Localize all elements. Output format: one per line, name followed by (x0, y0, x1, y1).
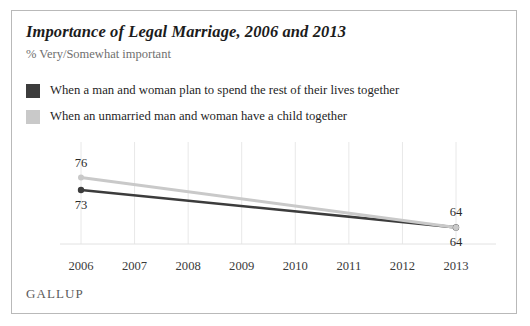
series-lines (81, 178, 456, 228)
x-tick-label-2007: 2007 (122, 259, 147, 274)
x-tick-label-2012: 2012 (390, 259, 415, 274)
chart-title: Importance of Legal Marriage, 2006 and 2… (26, 22, 346, 42)
series-markers (78, 175, 459, 231)
gridlines (81, 142, 456, 244)
value-label-2006-73: 73 (75, 198, 88, 213)
value-label-2013-64: 64 (450, 235, 463, 250)
series-line-0 (81, 190, 456, 227)
value-label-2013-64: 64 (450, 205, 463, 220)
legend-swatch-dark-icon (26, 84, 40, 98)
x-tick-label-2011: 2011 (336, 259, 361, 274)
gallup-logo: GALLUP (26, 286, 84, 302)
value-label-2006-76: 76 (75, 155, 88, 170)
legend-label-1: When an unmarried man and woman have a c… (50, 109, 347, 124)
legend-swatch-light-icon (26, 110, 40, 124)
x-tick-label-2008: 2008 (176, 259, 201, 274)
chart-card: Importance of Legal Marriage, 2006 and 2… (11, 10, 517, 314)
legend-label-0: When a man and woman plan to spend the r… (50, 83, 399, 98)
data-point-marker (78, 175, 84, 181)
data-point-marker (453, 224, 459, 230)
x-tick-label-2006: 2006 (68, 259, 93, 274)
legend-item-0: When a man and woman plan to spend the r… (26, 83, 399, 98)
data-point-marker (78, 187, 84, 193)
x-tick-label-2013: 2013 (443, 259, 468, 274)
series-line-1 (81, 178, 456, 228)
x-tick-label-2010: 2010 (283, 259, 308, 274)
data-point-marker (453, 224, 459, 230)
legend-item-1: When an unmarried man and woman have a c… (26, 109, 347, 124)
chart-subtitle: % Very/Somewhat important (26, 47, 171, 62)
x-tick-label-2009: 2009 (229, 259, 254, 274)
